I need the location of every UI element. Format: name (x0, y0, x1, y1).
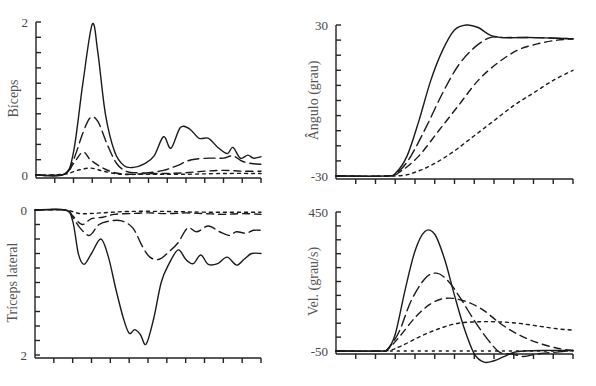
series-condition-1-line (336, 25, 573, 176)
y-tick-label-top: 450 (309, 205, 329, 220)
panel-triceps-chart: 02Tríceps lateral (5, 203, 261, 363)
series-condition-1-line (36, 23, 261, 176)
series-condition-2-line (336, 37, 573, 177)
series-condition-3-line (336, 298, 573, 351)
series-condition-2-line (35, 209, 261, 259)
series-condition-3-line (36, 152, 261, 175)
series-condition-4-line (336, 322, 573, 352)
panel-velocity-chart: 450-50Vel. (grau/s) (306, 205, 573, 363)
y-tick-label-top: 30 (315, 18, 328, 33)
y-tick-label-top: 2 (22, 15, 29, 30)
series-condition-1-line (35, 209, 261, 344)
y-axis-title: Bíceps (6, 79, 21, 117)
figure: 20Bíceps 30-30Ângulo (grau) 02Tríceps la… (0, 0, 596, 386)
panel-biceps-chart: 20Bíceps (6, 15, 261, 183)
y-axis-title: Tríceps lateral (5, 242, 20, 322)
series-condition-3-line (336, 39, 573, 177)
y-tick-label-bottom: -50 (311, 344, 328, 359)
series-condition-4-line (336, 70, 573, 176)
panel-angle-chart: 30-30Ângulo (grau) (305, 18, 573, 184)
y-axis-title: Vel. (grau/s) (306, 247, 322, 317)
y-tick-label-bottom: 2 (21, 348, 28, 363)
y-tick-label-bottom: -30 (311, 169, 328, 184)
y-tick-label-top: 0 (21, 203, 28, 218)
series-condition-2-line (336, 273, 573, 356)
y-axis-title: Ângulo (grau) (305, 60, 322, 140)
y-tick-label-bottom: 0 (22, 168, 29, 183)
